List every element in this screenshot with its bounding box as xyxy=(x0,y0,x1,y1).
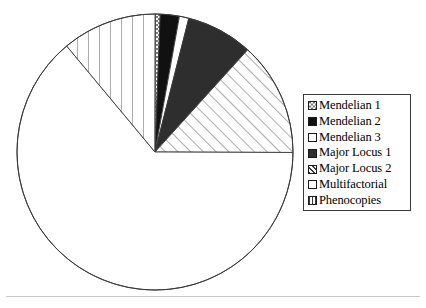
pie-slices-group xyxy=(17,14,293,290)
legend-label-multifactorial: Multifactorial xyxy=(319,177,387,193)
pie-chart: Mendelian 1 Mendelian 2 Mendelian 3 Majo… xyxy=(0,0,426,308)
legend-swatch-major-locus-1 xyxy=(308,149,317,158)
legend-label-major-locus-1: Major Locus 1 xyxy=(319,145,391,161)
legend-swatch-phenocopies xyxy=(308,196,317,205)
legend-label-mendelian-1: Mendelian 1 xyxy=(319,98,381,114)
legend-label-major-locus-2: Major Locus 2 xyxy=(319,161,391,177)
legend-label-phenocopies: Phenocopies xyxy=(319,193,381,209)
legend-label-mendelian-3: Mendelian 3 xyxy=(319,130,381,146)
legend-swatch-mendelian-3 xyxy=(308,133,317,142)
legend-item-major-locus-2: Major Locus 2 xyxy=(308,161,408,177)
legend-swatch-major-locus-2 xyxy=(308,165,317,174)
legend-swatch-mendelian-1 xyxy=(308,101,317,110)
legend-item-mendelian-2: Mendelian 2 xyxy=(308,114,408,130)
legend-label-mendelian-2: Mendelian 2 xyxy=(319,114,381,130)
legend-item-phenocopies: Phenocopies xyxy=(308,193,408,209)
legend-item-mendelian-3: Mendelian 3 xyxy=(308,130,408,146)
bottom-divider xyxy=(6,296,420,297)
chart-legend: Mendelian 1 Mendelian 2 Mendelian 3 Majo… xyxy=(303,94,411,211)
legend-item-multifactorial: Multifactorial xyxy=(308,177,408,193)
legend-item-major-locus-1: Major Locus 1 xyxy=(308,145,408,161)
legend-swatch-mendelian-2 xyxy=(308,117,317,126)
legend-swatch-multifactorial xyxy=(308,180,317,189)
legend-item-mendelian-1: Mendelian 1 xyxy=(308,98,408,114)
